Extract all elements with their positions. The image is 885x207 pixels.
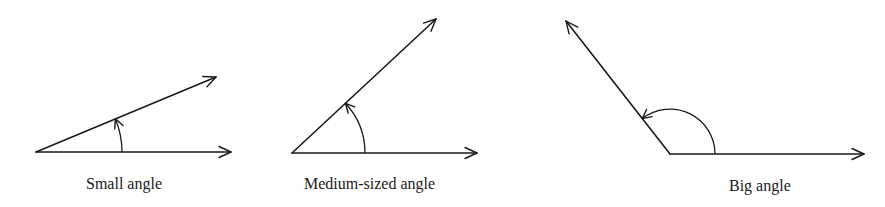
angles-diagram: Small angleMedium-sized angleBig angle: [0, 0, 885, 207]
rotated-ray: [566, 21, 670, 154]
rotated-ray: [36, 77, 216, 152]
angle-panel-small: Small angle: [36, 77, 231, 194]
caption-medium: Medium-sized angle: [304, 175, 435, 193]
angle-panel-big: Big angle: [566, 21, 864, 195]
caption-small: Small angle: [86, 175, 162, 193]
angle-panel-medium: Medium-sized angle: [292, 19, 477, 193]
caption-big: Big angle: [729, 177, 791, 195]
angle-arc: [345, 103, 365, 153]
rotated-ray: [292, 19, 436, 153]
